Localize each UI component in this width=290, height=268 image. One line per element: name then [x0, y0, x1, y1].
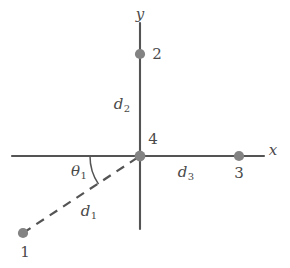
segment-label-d2-base: d: [114, 95, 124, 113]
segment-label-d2-subscript: 2: [124, 102, 130, 113]
angle-label-theta1-subscript: 1: [81, 169, 87, 180]
node-4: [135, 151, 146, 162]
node-label-4: 4: [148, 132, 158, 147]
angle-arc-theta1: [90, 156, 99, 184]
segment-label-d1-base: d: [81, 202, 91, 220]
segment-label-d3: d3: [178, 165, 194, 182]
segment-label-d3-subscript: 3: [188, 170, 194, 181]
segment-label-d1: d1: [81, 204, 97, 221]
coordinate-diagram: [0, 0, 290, 268]
node-3: [234, 151, 244, 161]
x-axis-label: x: [269, 143, 277, 158]
node-label-1: 1: [20, 245, 30, 260]
segment-label-d3-base: d: [178, 163, 188, 181]
angle-label-theta1-base: θ: [71, 162, 80, 180]
y-axis-label: y: [136, 7, 144, 22]
node-label-3: 3: [234, 166, 244, 181]
segment-label-d2: d2: [114, 97, 130, 114]
node-2: [135, 49, 145, 59]
node-1: [18, 228, 28, 238]
segment-label-d1-subscript: 1: [91, 209, 97, 220]
angle-label-theta1: θ1: [71, 164, 87, 181]
node-label-2: 2: [152, 47, 162, 62]
